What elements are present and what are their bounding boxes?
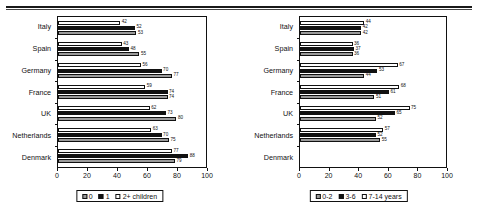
x-axis-tick-label: 60 — [143, 172, 151, 179]
bar[interactable] — [58, 149, 172, 153]
bar[interactable] — [300, 117, 376, 121]
chart-right: ItalySpainGermanyFranceUKNetherlandsDenm… — [239, 12, 478, 222]
bar-value-label: 42 — [363, 31, 368, 36]
header-rule-thick — [6, 6, 472, 8]
bar-row: 74 — [58, 95, 206, 99]
bar[interactable] — [58, 111, 166, 115]
bar[interactable] — [58, 42, 122, 46]
bar[interactable] — [58, 21, 120, 25]
bar[interactable] — [58, 133, 162, 137]
x-axis-tick — [417, 168, 418, 171]
bar-row: 73 — [58, 111, 206, 115]
bar-group — [300, 146, 446, 167]
bar[interactable] — [300, 106, 410, 110]
bar-row: 61 — [300, 90, 446, 94]
bar[interactable] — [300, 52, 353, 56]
bar[interactable] — [58, 90, 168, 94]
bar[interactable] — [300, 26, 361, 30]
bar[interactable] — [300, 95, 374, 99]
bar-group: 686151 — [300, 81, 446, 102]
legend-item[interactable]: 7-14 years — [362, 193, 402, 200]
bar[interactable] — [300, 74, 364, 78]
bar[interactable] — [58, 47, 129, 51]
bar[interactable] — [58, 69, 162, 73]
bar-group: 363736 — [300, 38, 446, 59]
legend-item[interactable]: 2+ children — [116, 193, 157, 200]
bar[interactable] — [58, 117, 176, 121]
x-axis-tick-label: 0 — [55, 172, 59, 179]
header-rule-thin — [6, 9, 472, 10]
bar-row: 68 — [300, 85, 446, 89]
bar-row: 79 — [58, 159, 206, 163]
bar-row: 75 — [300, 106, 446, 110]
bar-value-label: 73 — [168, 111, 173, 116]
x-axis-tick — [299, 168, 300, 171]
legend-item[interactable]: 0-2 — [315, 193, 332, 200]
legend-swatch-icon — [99, 194, 104, 199]
bar-row: 52 — [58, 26, 206, 30]
bar-row: 80 — [58, 117, 206, 121]
bar-row: 65 — [300, 111, 446, 115]
y-axis-labels-right: ItalySpainGermanyFranceUKNetherlandsDenm… — [239, 16, 297, 168]
bar-value-label: 61 — [391, 90, 396, 95]
bar[interactable] — [58, 95, 168, 99]
legend-swatch-icon — [116, 194, 121, 199]
bar-group: 756552 — [300, 103, 446, 124]
bar[interactable] — [58, 52, 139, 56]
bar[interactable] — [58, 63, 141, 67]
bar[interactable] — [300, 47, 354, 51]
legend-item[interactable]: 3-6 — [338, 193, 355, 200]
bar[interactable] — [58, 26, 135, 30]
bar-value-label: 43 — [123, 42, 128, 47]
bar-value-label: 74 — [169, 95, 174, 100]
bar[interactable] — [300, 133, 376, 137]
x-axis-tick-label: 100 — [201, 172, 213, 179]
bar-group: 637075 — [58, 124, 206, 145]
x-axis-tick-label: 100 — [441, 172, 453, 179]
bar[interactable] — [58, 138, 169, 142]
bar[interactable] — [58, 85, 145, 89]
legend-item[interactable]: 0 — [82, 193, 93, 200]
x-axis-tick-label: 60 — [384, 172, 392, 179]
y-axis-label: Netherlands — [239, 125, 297, 147]
y-axis-label: Spain — [0, 38, 55, 60]
bar-row: 75 — [58, 138, 206, 142]
bar-value-label: 55 — [382, 138, 387, 143]
bar[interactable] — [300, 85, 399, 89]
bar[interactable] — [58, 31, 136, 35]
bar-value-label: 56 — [142, 63, 147, 68]
bar-row: 74 — [58, 90, 206, 94]
bar[interactable] — [58, 128, 151, 132]
bar[interactable] — [58, 159, 175, 163]
bar[interactable] — [58, 74, 172, 78]
bar[interactable] — [300, 42, 353, 46]
bar-group: 627380 — [58, 103, 206, 124]
legend-item[interactable]: 1 — [99, 193, 110, 200]
bar-group: 434855 — [58, 38, 206, 59]
bar-row: 44 — [300, 21, 446, 25]
x-axis-right: 020406080100 — [299, 168, 447, 184]
x-axis-tick-label: 40 — [354, 172, 362, 179]
x-axis-tick-label: 20 — [83, 172, 91, 179]
bar[interactable] — [58, 106, 150, 110]
bar[interactable] — [300, 21, 364, 25]
bar-row: 52 — [300, 133, 446, 137]
bar[interactable] — [300, 31, 361, 35]
y-axis-label: Italy — [239, 16, 297, 38]
x-axis-left: 020406080100 — [57, 168, 207, 184]
bar-value-label: 44 — [366, 73, 371, 78]
bar-row — [300, 149, 446, 153]
y-axis-labels-left: ItalySpainGermanyFranceUKNetherlandsDenm… — [0, 16, 55, 168]
x-axis-tick-label: 20 — [325, 172, 333, 179]
bar[interactable] — [300, 128, 383, 132]
bar-value-label: 59 — [147, 84, 152, 89]
bar-row: 53 — [300, 69, 446, 73]
bar-row: 51 — [300, 95, 446, 99]
bar-row: 36 — [300, 52, 446, 56]
bar[interactable] — [58, 154, 188, 158]
x-axis-tick — [207, 168, 208, 171]
legend-label: 2+ children — [123, 193, 157, 200]
bar[interactable] — [300, 138, 380, 142]
bar-row: 88 — [58, 154, 206, 158]
bar-row: 62 — [58, 106, 206, 110]
